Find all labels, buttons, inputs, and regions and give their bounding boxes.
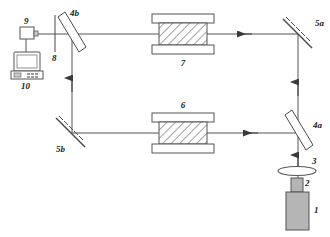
sample-cell-upper-label: 7 <box>181 58 186 68</box>
laser-label: 1 <box>314 205 319 215</box>
beam-splitter-upper-label: 4b <box>69 8 80 18</box>
lens-label: 3 <box>311 156 317 166</box>
computer-drive-slot <box>14 73 21 77</box>
figure-canvas: 7 6 5a 5b 4a <box>0 0 330 237</box>
photodetector-nose <box>34 31 38 36</box>
mirror-lower-left-label: 5b <box>56 144 66 154</box>
laser-output-neck <box>291 178 303 192</box>
sample-cell-upper-bottom-plate <box>152 45 214 54</box>
sample-cell-upper-body <box>159 23 207 45</box>
photodetector-body <box>20 27 34 39</box>
computer-label: 10 <box>21 81 31 91</box>
lens-element <box>278 167 316 176</box>
beam-splitter-lower-label: 4a <box>312 120 323 130</box>
laser-neck-label: 2 <box>304 178 310 188</box>
mirror-upper-right-label: 5a <box>315 18 325 28</box>
aperture-polarizer-label: 8 <box>52 53 57 63</box>
sample-cell-lower-body <box>159 122 207 144</box>
sample-cell-upper-top-plate <box>152 14 214 23</box>
sample-cell-lower-bottom-plate <box>152 144 214 153</box>
sample-cell-lower-label: 6 <box>181 100 186 110</box>
photodetector-label: 9 <box>24 16 29 26</box>
sample-cell-lower-top-plate <box>152 113 214 122</box>
computer-screen <box>17 55 37 68</box>
laser-body <box>286 192 309 230</box>
